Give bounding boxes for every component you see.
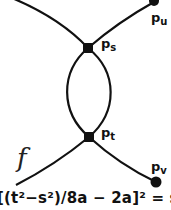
label-pv-sub: v — [160, 165, 167, 176]
label-pt: pt — [101, 126, 115, 142]
label-pv: pv — [151, 160, 167, 176]
label-pu: pu — [151, 11, 167, 27]
edge-ps-to-pu — [88, 2, 154, 48]
label-ps: ps — [101, 37, 116, 53]
edge-ps-pt-left — [67, 48, 89, 137]
curves-graphic — [0, 0, 171, 210]
node-ps — [83, 43, 93, 53]
edge-upper-left-to-ps — [12, 0, 88, 48]
curve-diagram: ps pt pu pv f [(t²−s²)/8a − 2a]² = s²− — [0, 0, 171, 210]
label-ps-sub: s — [110, 42, 116, 53]
edge-ps-pt-right — [88, 48, 111, 137]
label-ps-main: p — [101, 36, 110, 51]
label-pu-sub: u — [160, 16, 167, 27]
function-label: f — [17, 145, 27, 171]
node-pv — [151, 177, 162, 188]
formula: [(t²−s²)/8a − 2a]² = s²− — [0, 191, 171, 206]
edge-pt-to-pv — [89, 137, 156, 182]
label-pv-main: p — [151, 159, 160, 174]
label-pt-sub: t — [110, 131, 115, 142]
node-pt — [84, 132, 94, 142]
label-pt-main: p — [101, 125, 110, 140]
label-pu-main: p — [151, 10, 160, 25]
